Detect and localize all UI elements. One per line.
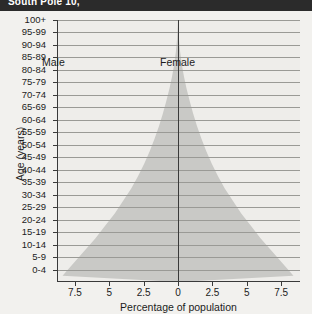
y-tick-label: 95-99 [22,27,46,37]
x-tick-mark [75,282,76,286]
y-tick-label: 0-4 [32,265,46,275]
y-tick-mark [53,157,57,158]
y-tick-label: 30-34 [22,190,46,200]
page-title: South Pole 10, [8,0,80,7]
y-axis-title-wrap: Age (years) [8,20,22,282]
header-bar: South Pole 10, [0,0,312,11]
x-tick-label: 7.5 [60,287,90,298]
y-tick-mark [53,132,57,133]
y-tick-label: 20-24 [22,215,46,225]
x-tick-label: 0 [163,287,193,298]
y-tick-label: 10-14 [22,240,46,250]
x-axis-title: Percentage of population [57,301,300,313]
y-tick-mark [53,82,57,83]
x-tick-label: 2.5 [197,287,227,298]
x-tick-label: 5 [232,287,262,298]
y-tick-label: 15-19 [22,227,46,237]
x-tick-mark [247,282,248,286]
y-tick-mark [53,32,57,33]
y-tick-label: 25-29 [22,202,46,212]
y-tick-label: 50-54 [22,140,46,150]
y-tick-label: 40-44 [22,165,46,175]
y-tick-mark [53,95,57,96]
y-tick-label: 60-64 [22,115,46,125]
y-tick-label: 45-49 [22,152,46,162]
page-body: Age (years) 0-45-910-1415-1920-2425-2930… [0,11,312,314]
y-tick-mark [53,270,57,271]
y-tick-mark [53,120,57,121]
y-tick-label: 55-59 [22,127,46,137]
x-tick-mark [178,282,179,286]
x-tick-mark [281,282,282,286]
y-tick-mark [53,182,57,183]
y-tick-mark [53,220,57,221]
y-tick-label: 70-74 [22,90,46,100]
y-tick-label: 35-39 [22,177,46,187]
x-tick-label: 2.5 [129,287,159,298]
y-tick-mark [53,70,57,71]
x-tick-label: 7.5 [266,287,296,298]
series-label-male: Male [42,56,65,68]
female-area [178,20,294,282]
population-pyramid-figure: Age (years) 0-45-910-1415-1920-2425-2930… [0,11,305,314]
y-tick-label: 65-69 [22,102,46,112]
y-tick-label: 5-9 [32,252,46,262]
y-tick-mark [53,145,57,146]
y-tick-mark [53,245,57,246]
y-tick-mark [53,257,57,258]
y-tick-mark [53,107,57,108]
y-tick-mark [53,207,57,208]
y-tick-mark [53,45,57,46]
y-tick-mark [53,20,57,21]
y-tick-mark [53,232,57,233]
x-tick-label: 5 [94,287,124,298]
y-tick-label: 90-94 [22,40,46,50]
y-tick-mark [53,195,57,196]
y-tick-label: 100+ [25,15,46,25]
x-tick-mark [212,282,213,286]
y-tick-mark [53,170,57,171]
x-tick-mark [144,282,145,286]
y-tick-label: 75-79 [22,77,46,87]
series-label-female: Female [160,56,195,68]
x-tick-mark [109,282,110,286]
